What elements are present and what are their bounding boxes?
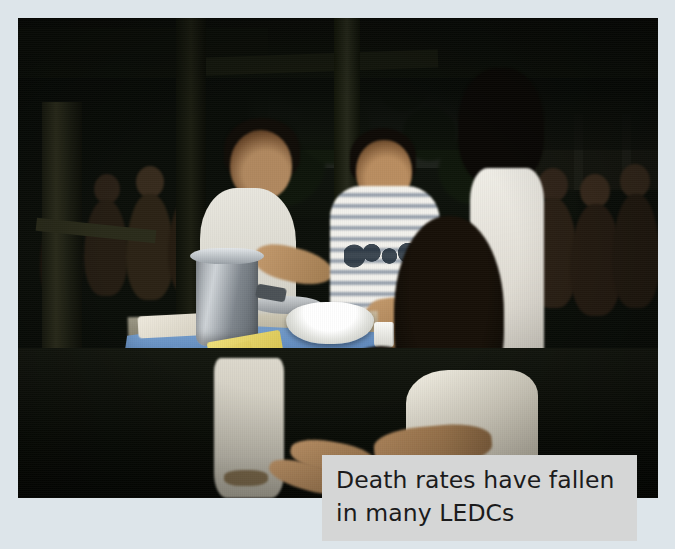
roof-rafter: [18, 28, 268, 54]
caption-line-1: Death rates have fallen: [336, 464, 637, 497]
crowd-head: [580, 174, 610, 208]
photo-caption-box: Death rates have fallen in many LEDCs: [322, 455, 637, 541]
crowd-head: [620, 164, 650, 198]
caption-line-2: in many LEDCs: [336, 497, 637, 530]
crowd-figure: [612, 194, 658, 308]
sandal-foreground: [224, 470, 268, 486]
pot-rim: [190, 248, 264, 264]
page-root: Death rates have fallen in many LEDCs: [0, 0, 675, 549]
white-enamel-bowl: [286, 302, 374, 344]
plastic-cup: [374, 322, 394, 348]
crowd-figure: [84, 200, 128, 296]
photograph: [18, 18, 658, 498]
metal-cooking-pot: [196, 254, 258, 346]
crowd-figure: [126, 194, 174, 300]
